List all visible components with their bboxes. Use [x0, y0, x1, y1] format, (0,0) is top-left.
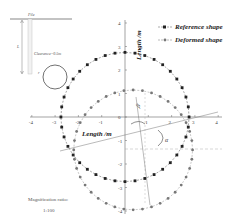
magnification-value: 1:100: [43, 208, 55, 213]
x-tick-label: 3: [192, 120, 195, 125]
inset-schematic: Pile L Clearance=0.5m r: [10, 12, 72, 89]
alpha-label: α: [165, 137, 169, 143]
legend-reference: Reference shape: [174, 23, 223, 31]
y-tick-label: -3: [118, 186, 123, 191]
y-tick-label: 2: [118, 68, 121, 73]
y-tick-label: 1: [118, 92, 121, 97]
x-tick-label: 1: [145, 120, 148, 125]
radius-label: r: [38, 70, 40, 75]
alpha-arc: [158, 130, 163, 146]
chart-canvas: -4-3-2-11234 43210-1-2-3-4 β α Length /m…: [0, 0, 234, 224]
x-tick-label: 4: [215, 120, 218, 125]
clearance-label: Clearance=0.5m: [34, 51, 61, 56]
y-ticks: 43210-1-2-3-4: [118, 21, 127, 214]
legend-deformed: Deformed shape: [174, 36, 222, 44]
pile-label: Pile: [27, 12, 35, 17]
pile-icon: [28, 19, 32, 74]
deformed-shape-series: [72, 89, 194, 212]
x-tick-label: -1: [99, 120, 104, 125]
reference-marker-icon: [163, 26, 166, 29]
y-tick-label: -1: [118, 139, 123, 144]
x-tick-label: -3: [52, 120, 57, 125]
x-tick-label: -4: [29, 120, 34, 125]
y-tick-label: -4: [118, 209, 123, 214]
deformed-marker-icon: [164, 39, 167, 42]
legend: Reference shape Deformed shape: [158, 23, 223, 44]
magnification-label: Magnification ratio:: [28, 197, 68, 202]
depth-label: L: [16, 44, 20, 49]
x-axis-label: Length /m: [81, 130, 112, 138]
tunnel-circle-icon: [43, 65, 67, 89]
beta-reference-line: [136, 97, 150, 205]
y-tick-label: 0: [118, 115, 121, 120]
beta-label: β: [134, 103, 141, 109]
y-tick-label: -2: [118, 162, 123, 167]
beta-arc: [131, 122, 145, 125]
y-tick-label: 4: [118, 21, 121, 26]
y-axis-label: Length /m: [135, 30, 143, 61]
axes: -4-3-2-11234 43210-1-2-3-4: [29, 20, 222, 214]
y-tick-label: 3: [118, 45, 121, 50]
